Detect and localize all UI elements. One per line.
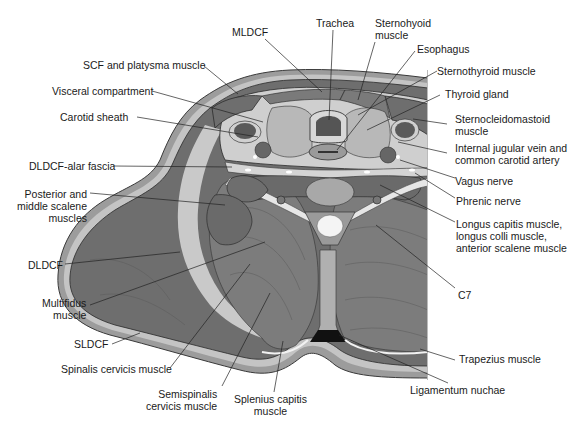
label-line: muscle <box>234 405 307 417</box>
label-line: muscle <box>375 29 431 41</box>
label-scf-platysma: SCF and platysma muscle <box>83 59 206 71</box>
label-line: Semispinalis <box>146 388 217 400</box>
nerve-dot <box>364 171 370 174</box>
vertebral-artery-right <box>373 196 381 204</box>
label-visceral-compartment: Visceral compartment <box>52 85 153 97</box>
label-carotid-sheath: Carotid sheath <box>60 111 128 123</box>
label-line: Splenius capitis <box>234 393 307 405</box>
label-spinalis-cervicis-muscle: Spinalis cervicis muscle <box>61 363 172 375</box>
label-trachea: Trachea <box>316 17 354 29</box>
label-semispinalis-cervicis-muscle: Semispinalis cervicis muscle <box>146 388 217 412</box>
esophagus-lumen <box>318 151 338 153</box>
label-mldcf: MLDCF <box>232 26 268 38</box>
label-dldcf-alar-fascia: DLDCF-alar fascia <box>29 160 115 172</box>
label-phrenic-nerve: Phrenic nerve <box>456 195 521 207</box>
label-line: muscle <box>42 309 86 321</box>
label-c7: C7 <box>458 289 471 301</box>
nerve-dot <box>245 169 251 172</box>
trachea-lumen <box>316 116 341 136</box>
c7-vertebral-body <box>306 178 354 206</box>
label-line: Longus capitis muscle, <box>456 218 567 230</box>
label-multifidus-muscle: Multifidus muscle <box>42 297 86 321</box>
label-thyroid-gland: Thyroid gland <box>445 88 509 100</box>
label-line: Multifidus <box>42 297 86 309</box>
label-esophagus: Esophagus <box>417 43 470 55</box>
label-line: Posterior and <box>17 188 87 200</box>
spinal-cord <box>317 215 343 237</box>
vertebral-artery-left <box>277 196 285 204</box>
label-line: cervicis muscle <box>146 400 217 412</box>
label-splenius-capitis-muscle: Splenius capitis muscle <box>234 393 307 417</box>
label-line: muscle <box>455 125 550 137</box>
label-dldcf: DLDCF <box>28 259 63 271</box>
label-line: muscles <box>17 212 87 224</box>
label-line: Sternocleidomastoid <box>455 113 550 125</box>
label-sldcf: SLDCF <box>74 338 108 350</box>
phrenic-nerve-dot <box>409 169 415 172</box>
label-line: anterior scalene muscle <box>456 242 567 254</box>
label-vagus-nerve: Vagus nerve <box>455 175 513 187</box>
label-ligamentum-nuchae: Ligamentum nuchae <box>410 384 505 396</box>
label-posterior-middle-scalene: Posterior and middle scalene muscles <box>17 188 87 224</box>
label-trapezius-muscle: Trapezius muscle <box>459 353 541 365</box>
label-sternohyoid-muscle: Sternohyoid muscle <box>375 17 431 41</box>
label-line: Internal jugular vein and <box>455 142 567 154</box>
label-sternocleidomastoid-muscle: Sternocleidomastoid muscle <box>455 113 550 137</box>
label-sternothyroid-muscle: Sternothyroid muscle <box>437 65 536 77</box>
label-internal-jugular-vein: Internal jugular vein and common carotid… <box>455 142 567 166</box>
label-line: common carotid artery <box>455 154 567 166</box>
nerve-dot <box>286 171 292 174</box>
thyroid-gland-left <box>267 106 312 157</box>
label-line: middle scalene <box>17 200 87 212</box>
label-longus-muscles: Longus capitis muscle, longus colli musc… <box>456 218 567 254</box>
label-line: longus colli muscle, <box>456 230 567 242</box>
label-line: Sternohyoid <box>375 17 431 29</box>
